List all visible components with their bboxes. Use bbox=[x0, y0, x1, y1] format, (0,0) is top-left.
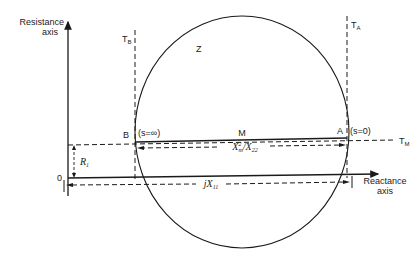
tangent-tm-label: TM bbox=[399, 136, 410, 147]
tangent-tb-label: TB bbox=[122, 34, 132, 45]
dimension-r1-label: R1 bbox=[79, 156, 89, 168]
point-b-label: B bbox=[123, 130, 129, 140]
reactance-axis: Reactance axis 0 bbox=[57, 173, 407, 196]
resistance-axis: Resistance axis bbox=[19, 17, 68, 196]
point-a-condition: (s=0) bbox=[350, 126, 371, 136]
point-b-condition: (s=∞) bbox=[138, 128, 160, 138]
circle-diagram: Resistance axis Reactance axis 0 Z TB TA… bbox=[0, 0, 420, 262]
dimension-r1: R1 bbox=[72, 145, 89, 178]
resistance-axis-label-line2: axis bbox=[42, 27, 59, 37]
reactance-axis-label-line2: axis bbox=[377, 186, 394, 196]
resistance-axis-label: Resistance bbox=[19, 17, 64, 27]
point-a-label: A bbox=[337, 126, 343, 136]
chord-ba: B (s=∞) A (s=0) M bbox=[123, 126, 371, 142]
dimension-xm2-x22-label: X2m/X22 bbox=[231, 141, 257, 153]
dimension-jx11-label: jX11 bbox=[202, 178, 218, 190]
point-m-label: M bbox=[238, 128, 246, 138]
dimension-xm2-x22: X2m/X22 bbox=[137, 141, 346, 153]
tangent-tb: TB bbox=[122, 30, 135, 182]
tangent-ta-label: TA bbox=[351, 20, 361, 31]
origin-label: 0 bbox=[57, 173, 62, 183]
reactance-axis-label: Reactance bbox=[363, 176, 406, 186]
dimension-jx11: jX11 bbox=[64, 176, 352, 192]
circle-label-z: Z bbox=[196, 44, 202, 54]
tangent-ta: TA bbox=[347, 16, 361, 178]
